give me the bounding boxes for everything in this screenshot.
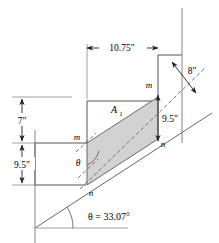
theta-arc-bottom [67,207,73,228]
label-n-left: n [89,188,94,198]
dim-label-left-95: 9.5" [14,160,30,170]
area-label-subscript: 1 [119,110,123,118]
dim-label-7: 7" [18,116,27,126]
label-n-right: n [161,139,166,149]
dashed-cut-upper [80,68,205,189]
area-label-a: A [110,104,118,115]
engineering-diagram: θ A 1 m m n n 10.75" 8" 9.5" [0,0,219,243]
dimension-left-upper-7: 7" [14,99,31,141]
label-m-left: m [74,132,81,142]
figure-container: θ A 1 m m n n 10.75" 8" 9.5" [0,0,219,243]
angle-value-label: θ = 33.07° [88,211,130,222]
label-m-right: m [146,80,153,90]
angle-theta-group: θ = 33.07° [35,207,130,228]
dimension-right-vertical: 9.5" [158,95,178,141]
dim-label-1075: 10.75" [109,43,134,53]
theta-corner-label: θ [76,158,81,168]
dim-label-right-95: 9.5" [162,114,178,124]
dimension-top-horizontal: 10.75" [87,41,158,99]
dim-label-8: 8" [188,66,197,76]
dimension-left-lower-95: 9.5" [10,145,35,183]
area-label-group: A 1 [110,104,123,118]
